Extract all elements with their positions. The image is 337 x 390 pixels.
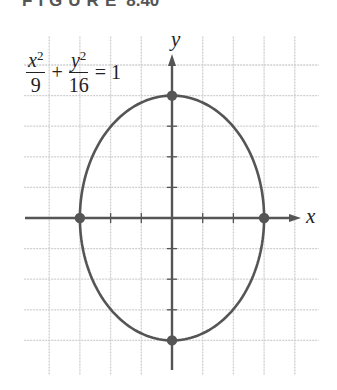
vertex-point bbox=[167, 335, 177, 345]
y-term-denominator: 16 bbox=[69, 73, 89, 95]
vertex-point bbox=[167, 90, 177, 100]
y-axis-arrow-icon bbox=[168, 54, 176, 66]
x-term-denominator: 9 bbox=[31, 73, 41, 95]
plus-sign: + bbox=[51, 61, 62, 84]
axes bbox=[25, 54, 301, 370]
vertex-point bbox=[259, 213, 269, 223]
y-term-fraction: y2 16 bbox=[69, 49, 89, 95]
ellipse-equation: x2 9 + y2 16 = 1 bbox=[26, 49, 121, 95]
x-term-variable: x bbox=[28, 49, 37, 71]
y-term-exponent: 2 bbox=[80, 48, 87, 63]
equals-one: = 1 bbox=[95, 61, 121, 84]
y-term-variable: y bbox=[71, 49, 80, 71]
x-term-fraction: x2 9 bbox=[26, 49, 45, 95]
x-axis-label: x bbox=[306, 204, 315, 229]
x-term-exponent: 2 bbox=[37, 48, 44, 63]
vertex-point bbox=[75, 213, 85, 223]
y-axis-label: y bbox=[171, 27, 180, 52]
